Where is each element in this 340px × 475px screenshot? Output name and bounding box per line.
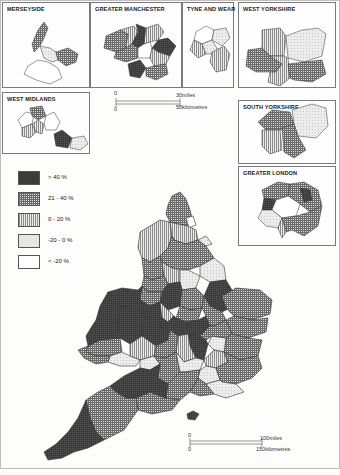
legend-item-0-20: 0 - 20 % [18,213,88,227]
inset-greater-manchester: GREATER MANCHESTER [90,2,182,88]
inset-scale-bar [116,98,180,107]
scale-km-label: 50kilometres [176,104,207,110]
main-scale-bar [190,438,262,447]
swatch-light [18,234,40,248]
scale-zero: 0 [188,432,191,438]
inset-title: WEST YORKSHIRE [243,6,295,12]
legend-label: 21 - 40 % [48,195,74,201]
inset-west-yorkshire: WEST YORKSHIRE [238,2,336,88]
legend-item-21-40: 21 - 40 % [18,192,88,206]
swatch-grid [18,192,40,206]
scale-zero: 0 [114,90,117,96]
legend-label: 0 - 20 % [48,216,70,222]
legend-item-over-40: > 40 % [18,171,88,185]
swatch-vertical [18,213,40,227]
scale-miles-label: 100miles [260,435,282,441]
legend-label: -20 - 0 % [48,237,72,243]
scale-zero: 0 [188,446,191,452]
swatch-dark [18,171,40,185]
inset-title: GREATER LONDON [243,170,297,176]
inset-west-midlands: WEST MIDLANDS [2,92,90,154]
inset-greater-london: GREATER LONDON [238,166,336,246]
inset-title: GREATER MANCHESTER [95,6,165,12]
inset-title: SOUTH YORKSHIRE [243,104,299,110]
inset-tyne-and-wear: TYNE AND WEAR [182,2,234,88]
inset-title: TYNE AND WEAR [187,6,235,12]
inset-south-yorkshire: SOUTH YORKSHIRE [238,100,336,164]
scale-zero: 0 [114,106,117,112]
legend-label: < -20 % [48,258,69,264]
inset-title: WEST MIDLANDS [7,96,56,102]
legend-item-under-minus20: < -20 % [18,255,88,269]
legend-label: > 40 % [48,174,67,180]
inset-merseyside: MERSEYSIDE [2,2,90,88]
inset-title: MERSEYSIDE [7,6,45,12]
scale-miles-label: 30miles [176,92,195,98]
scale-km-label: 150kilometres [256,446,290,452]
legend-item-minus20-0: -20 - 0 % [18,234,88,248]
swatch-blank [18,255,40,269]
